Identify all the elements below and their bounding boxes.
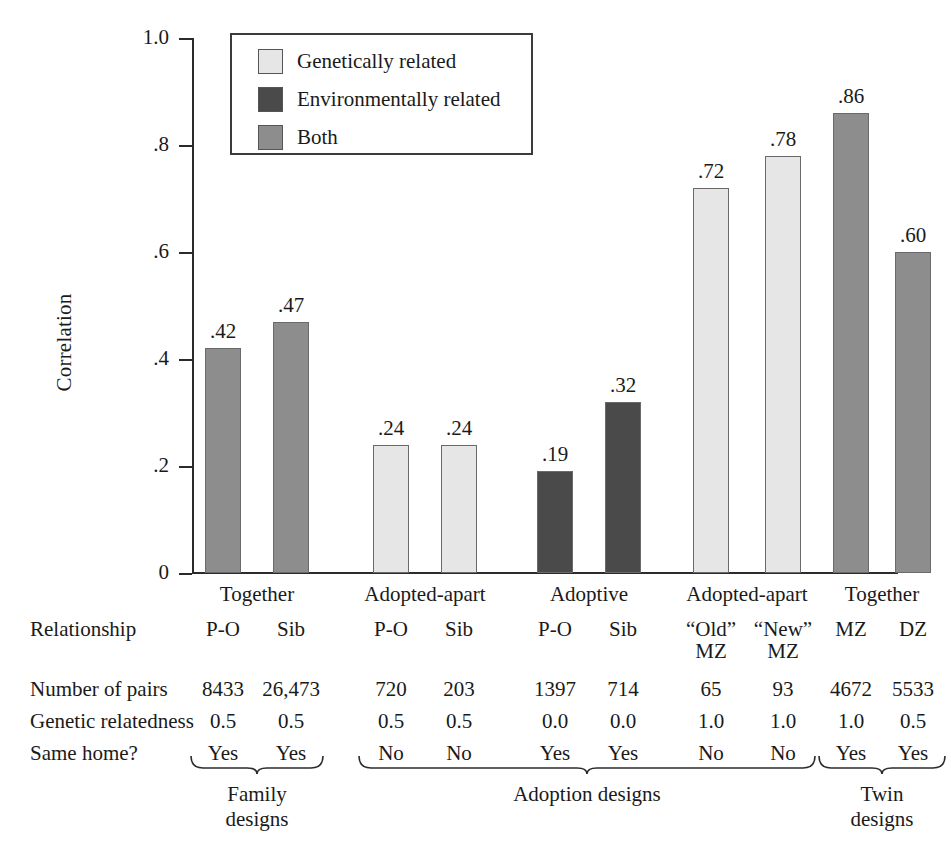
- y-tick-label: .2: [117, 455, 169, 476]
- bar: [693, 188, 729, 573]
- legend-item-genetically-related: Genetically related: [258, 49, 456, 74]
- bracket-1: [359, 756, 815, 774]
- table-row-label: Number of pairs: [30, 678, 168, 700]
- legend-swatch-both: [258, 125, 283, 150]
- y-tick-p6: .6: [0, 252, 193, 254]
- legend-swatch-genetically-related: [258, 49, 283, 74]
- bar-value-label: .42: [193, 321, 253, 342]
- y-tick-label: 0: [117, 562, 169, 583]
- table-row-label: Relationship: [30, 618, 136, 640]
- table-cell: Sib: [407, 618, 511, 640]
- figure-root: 1.0.8.6.4.20 Correlation Genetically rel…: [0, 0, 951, 862]
- bar-value-label: .32: [593, 375, 653, 396]
- legend-label-genetically-related: Genetically related: [297, 51, 456, 72]
- table-cell-line2: MZ: [731, 640, 835, 662]
- bar: [895, 252, 931, 573]
- legend-item-environmentally-related: Environmentally related: [258, 87, 501, 112]
- legend-swatch-environmentally-related: [258, 87, 283, 112]
- bar-value-label: .60: [883, 225, 943, 246]
- bar: [537, 471, 573, 573]
- bar-value-label: .86: [821, 86, 881, 107]
- y-tick-1p0: 1.0: [0, 38, 193, 40]
- table-cell: 0.5: [239, 710, 343, 732]
- chart-legend: Genetically related Environmentally rela…: [230, 33, 533, 155]
- bracket-lines: [0, 752, 951, 792]
- y-tick-label: .6: [117, 241, 169, 262]
- y-tick-0: 0: [0, 573, 193, 575]
- bar: [205, 348, 241, 573]
- y-tick-label: .4: [117, 348, 169, 369]
- table-cell: DZ: [861, 618, 951, 640]
- table-cell: Sib: [239, 618, 343, 640]
- bar: [833, 113, 869, 573]
- table-row-label: Genetic relatedness: [30, 710, 194, 732]
- bar-value-label: .24: [361, 418, 421, 439]
- y-tick-mark: [179, 466, 192, 468]
- y-tick-p2: .2: [0, 466, 193, 468]
- bar: [441, 445, 477, 573]
- design-brackets: FamilydesignsAdoption designsTwindesigns: [0, 752, 951, 862]
- table-cell: 26,473: [239, 678, 343, 700]
- y-tick-label: 1.0: [117, 27, 169, 48]
- table-cell: 5533: [861, 678, 951, 700]
- bracket-label-line2: designs: [772, 807, 951, 832]
- y-tick-p8: .8: [0, 145, 193, 147]
- legend-label-both: Both: [297, 127, 338, 148]
- y-tick-mark: [179, 145, 192, 147]
- bracket-2: [819, 756, 945, 774]
- bar-value-label: .24: [429, 418, 489, 439]
- bar: [605, 402, 641, 573]
- bar-value-label: .72: [681, 161, 741, 182]
- bracket-0: [191, 756, 323, 774]
- bar: [273, 322, 309, 573]
- y-tick-mark: [179, 38, 192, 40]
- bar-value-label: .78: [753, 129, 813, 150]
- y-axis-title: Correlation: [52, 243, 77, 443]
- y-tick-mark: [179, 252, 192, 254]
- bar: [765, 156, 801, 573]
- bar-chart-plot: 1.0.8.6.4.20 Correlation Genetically rel…: [0, 0, 951, 600]
- bar-value-label: .19: [525, 444, 585, 465]
- y-tick-mark: [179, 573, 192, 575]
- bar: [373, 445, 409, 573]
- bar-value-label: .47: [261, 295, 321, 316]
- legend-item-both: Both: [258, 125, 338, 150]
- y-tick-mark: [179, 359, 192, 361]
- table-cell: 0.5: [407, 710, 511, 732]
- bracket-label-line2: designs: [147, 807, 367, 832]
- table-cell: 0.5: [861, 710, 951, 732]
- table-cell: 203: [407, 678, 511, 700]
- y-axis-line: [192, 38, 194, 574]
- legend-label-environmentally-related: Environmentally related: [297, 89, 501, 110]
- y-tick-p4: .4: [0, 359, 193, 361]
- y-tick-label: .8: [117, 134, 169, 155]
